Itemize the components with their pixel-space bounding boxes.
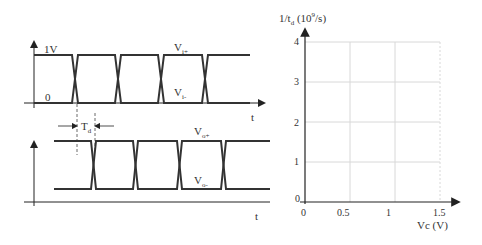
input-waveform-panel: [24, 44, 262, 108]
input-low-label: 0: [45, 92, 51, 103]
vo-plus-label: Vo+: [194, 126, 209, 140]
vi-plus-trace: [34, 55, 250, 103]
y-tick-2: 2: [294, 118, 299, 128]
vo-minus-label: Vo-: [194, 175, 208, 189]
input-high-label: 1V: [44, 44, 57, 55]
y-tick-4: 4: [294, 37, 299, 47]
x-tick-1-5: 1.5: [433, 208, 446, 218]
y-tick-1: 1: [294, 157, 299, 167]
chart-gridlines: [305, 42, 440, 202]
vi-plus-label: Vi+: [174, 42, 188, 56]
chart-y-axis-label: 1/td (109/s): [279, 12, 326, 27]
vi-minus-label: Vi-: [174, 87, 186, 101]
delay-vs-vc-chart: [300, 32, 456, 204]
chart-x-axis-label: Vc (V): [417, 220, 448, 231]
input-time-label: t: [251, 112, 254, 123]
output-waveform-panel: [24, 141, 270, 206]
diagram-canvas: [0, 0, 482, 245]
delay-label: Td: [81, 121, 91, 135]
vi-minus-trace: [34, 55, 250, 103]
y-tick-3: 3: [294, 77, 299, 87]
vo-minus-trace: [54, 141, 270, 189]
y-tick-0: 0: [295, 194, 300, 204]
x-tick-0: 0: [301, 208, 306, 218]
x-tick-0-5: 0.5: [337, 208, 350, 218]
output-time-label: t: [255, 211, 258, 222]
vo-plus-trace: [54, 141, 270, 189]
x-tick-1: 1: [386, 208, 391, 218]
